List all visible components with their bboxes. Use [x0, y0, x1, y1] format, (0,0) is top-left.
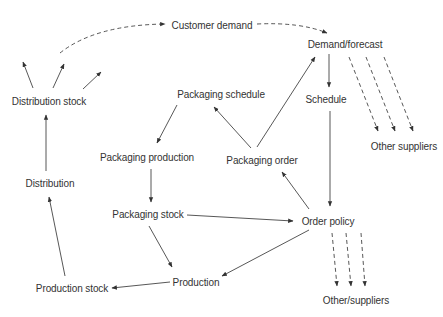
node-distribution-stock: Distribution stock [12, 96, 86, 107]
node-production: Production [173, 277, 220, 288]
edge-packaging-stock-to-production [149, 226, 172, 267]
edge-distribution-stock-outflow-2 [53, 64, 64, 88]
node-packaging-order: Packaging order [226, 155, 297, 166]
edge-production-stock-to-distribution [49, 197, 65, 276]
node-other-suppliers-top: Other suppliers [371, 141, 437, 152]
edge-customer-demand-to-demand-forecast [257, 24, 327, 33]
supply-chain-diagram: Customer demand Demand/forecast Schedule… [0, 0, 443, 317]
edge-demand-forecast-to-other-suppliers-1 [349, 57, 378, 131]
node-schedule: Schedule [306, 94, 347, 105]
node-production-stock: Production stock [36, 283, 108, 294]
node-packaging-schedule: Packaging schedule [177, 89, 265, 100]
edge-packaging-order-to-packaging-schedule [214, 107, 251, 148]
edge-order-policy-to-production [222, 230, 309, 276]
edge-order-policy-to-packaging-order [282, 172, 309, 209]
node-customer-demand: Customer demand [172, 20, 253, 31]
edge-distribution-stock-outflow-1 [23, 62, 33, 88]
edge-distribution-stock-outflow-3 [83, 72, 101, 89]
edge-order-policy-to-other-suppliers-2 [346, 233, 351, 286]
node-order-policy: Order policy [302, 216, 355, 227]
node-packaging-production: Packaging production [100, 152, 194, 163]
node-other-suppliers-bottom: Other/suppliers [323, 295, 389, 306]
edge-demand-forecast-to-other-suppliers-2 [366, 57, 395, 131]
node-packaging-stock: Packaging stock [112, 209, 183, 220]
edge-demand-forecast-to-other-suppliers-3 [384, 57, 413, 131]
node-distribution: Distribution [26, 178, 75, 189]
node-demand-forecast: Demand/forecast [308, 39, 383, 50]
edge-distribution-stock-to-customer-demand [60, 24, 165, 53]
edge-packaging-schedule-to-packaging-production [157, 105, 177, 143]
edge-production-to-production-stock [112, 282, 170, 288]
edge-order-policy-to-other-suppliers-1 [332, 233, 337, 286]
edge-packaging-stock-to-order-policy [187, 215, 293, 221]
edge-order-policy-to-other-suppliers-3 [361, 233, 365, 286]
